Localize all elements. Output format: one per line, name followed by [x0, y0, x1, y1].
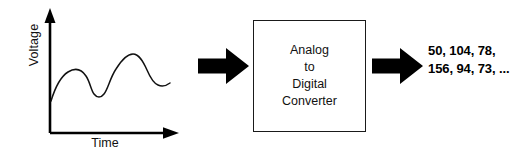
axis-arrow-right-icon	[163, 127, 179, 139]
y-axis-label: Voltage	[27, 5, 41, 85]
x-axis-label: Time	[70, 136, 140, 150]
block-arrow-right-icon-to-converter	[198, 47, 250, 85]
analog-waveform-icon	[51, 54, 170, 101]
adc-diagram: Voltage Time Analog to Digital Converter…	[0, 0, 532, 159]
analog-signal-graph: Voltage Time	[0, 0, 195, 159]
digital-output-line-1: 50, 104, 78,	[428, 42, 532, 60]
analog-to-digital-converter-box: Analog to Digital Converter	[253, 20, 366, 132]
digital-output-line-2: 156, 94, 73, ...	[428, 60, 532, 78]
converter-line-2: to	[304, 59, 314, 76]
converter-line-1: Analog	[290, 42, 329, 59]
converter-line-4: Converter	[282, 93, 337, 110]
converter-line-3: Digital	[292, 76, 327, 93]
axis-arrow-up-icon	[45, 8, 56, 23]
digital-output-values: 50, 104, 78, 156, 94, 73, ...	[428, 42, 532, 77]
block-arrow-right-icon-to-output	[372, 47, 424, 85]
